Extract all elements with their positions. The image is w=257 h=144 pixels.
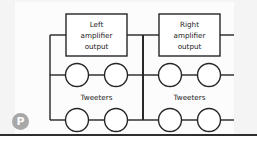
left-channel-group: Left amplifier output Tweeters [50,14,143,132]
p-logo-badge: P [12,113,29,130]
left-tweeter-1 [66,64,89,87]
right-tweeter-3 [159,109,182,132]
right-tweeter-1 [159,64,182,87]
right-amplifier-label-line3: output [178,42,202,51]
right-amplifier-label-line2: amplifier [174,31,206,40]
right-tweeter-4 [198,109,221,132]
left-amplifier-label-line3: output [85,42,109,51]
left-tweeter-2 [105,64,128,87]
right-tweeters-label: Tweeters [173,93,206,102]
diagram-panel-inner: Left amplifier output Tweeters [15,2,234,135]
left-tweeters-label: Tweeters [80,93,113,102]
wiring-diagram: Left amplifier output Tweeters [15,2,234,135]
bottom-margin [0,136,257,144]
left-amplifier-label-line2: amplifier [81,31,113,40]
left-tweeter-4 [105,109,128,132]
right-amplifier-label-line1: Right [180,20,199,29]
right-channel-group: Right amplifier output Tweeters [143,14,234,132]
screenshot-root: Left amplifier output Tweeters [0,0,257,144]
left-tweeter-3 [66,109,89,132]
left-amplifier-label-line1: Left [90,20,104,29]
right-tweeter-2 [198,64,221,87]
diagram-panel: Left amplifier output Tweeters [15,2,234,135]
